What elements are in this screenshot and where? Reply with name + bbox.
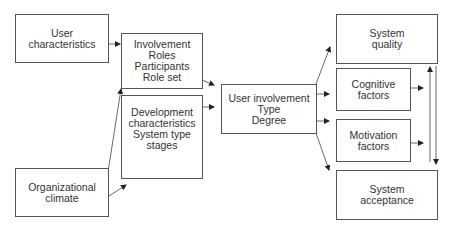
node-label-line: acceptance bbox=[360, 195, 414, 206]
node-label-line: factors bbox=[352, 90, 396, 101]
node-label-line: Type bbox=[228, 104, 309, 115]
node-label-line: Role set bbox=[134, 72, 191, 83]
node-label-line: Cognitive bbox=[352, 79, 396, 90]
node-involvement: Involvement Roles Participants Role set bbox=[121, 33, 203, 89]
node-label-line: climate bbox=[28, 193, 96, 204]
node-label-line: characteristics bbox=[28, 39, 95, 50]
node-development-characteristics: Development characteristics System type … bbox=[121, 95, 203, 179]
edge-org-climate-to-involvement bbox=[108, 89, 121, 172]
node-label-line: quality bbox=[369, 39, 404, 50]
node-user-characteristics: User characteristics bbox=[15, 14, 109, 63]
node-label-line: Motivation bbox=[350, 130, 398, 141]
node-label-line: factors bbox=[350, 141, 398, 152]
edge-org-climate-to-development bbox=[109, 185, 126, 196]
node-label-line: Degree bbox=[228, 115, 309, 126]
node-organizational-climate: Organizational climate bbox=[15, 168, 109, 217]
node-label-line: User bbox=[28, 28, 95, 39]
node-label-line: Organizational bbox=[28, 182, 96, 193]
node-system-acceptance: System acceptance bbox=[336, 170, 438, 220]
node-motivation-factors: Motivation factors bbox=[336, 119, 411, 162]
edge-involvement-to-user-involvement bbox=[202, 80, 214, 85]
edge-user-involvement-to-system-acceptance bbox=[316, 133, 329, 170]
node-label-line: stages bbox=[128, 140, 195, 151]
node-cognitive-factors: Cognitive factors bbox=[336, 68, 411, 111]
diagram-canvas: User characteristics Involvement Roles P… bbox=[0, 0, 452, 231]
node-user-involvement: User involvement Type Degree bbox=[221, 84, 317, 134]
edge-user-involvement-to-system-quality bbox=[316, 47, 330, 84]
node-label-line: User involvement bbox=[228, 93, 309, 104]
node-system-quality: System quality bbox=[336, 14, 438, 64]
